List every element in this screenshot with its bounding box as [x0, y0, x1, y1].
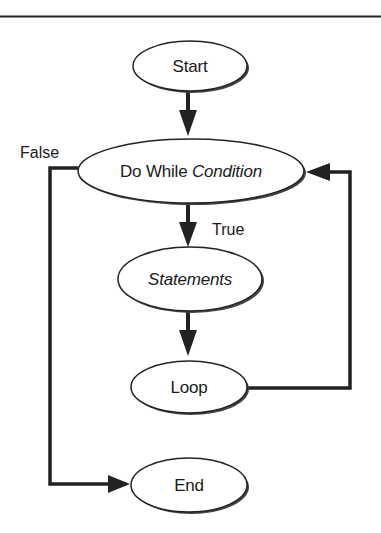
node-label: Start [173, 57, 208, 76]
edge-label-true: True [212, 221, 244, 238]
node-label: Do While Condition [120, 162, 262, 181]
arrowhead-icon [179, 222, 197, 247]
node-end: End [131, 458, 249, 514]
node-statements: Statements [118, 247, 264, 313]
arrowhead-icon [108, 475, 130, 493]
node-do-while: Do While Condition [78, 139, 306, 205]
edge-statements-to-loop [179, 312, 197, 356]
node-label: Loop [170, 378, 207, 397]
node-label: End [174, 476, 204, 495]
arrowhead-icon [179, 330, 197, 356]
edge-do-while-to-statements [179, 204, 197, 247]
arrowhead-icon [306, 163, 330, 181]
edge-start-to-do-while [179, 92, 197, 136]
edge-label-false: False [20, 144, 59, 161]
node-loop: Loop [131, 361, 249, 415]
arrowhead-icon [179, 110, 197, 136]
node-label-prefix: Do While [120, 162, 192, 181]
flowchart-canvas: True False Start Do While Condition Stat… [0, 0, 381, 533]
node-start: Start [133, 41, 249, 93]
edge-do-while-to-end [50, 168, 130, 493]
node-label-condition: Condition [192, 162, 262, 181]
node-label: Statements [148, 270, 233, 289]
